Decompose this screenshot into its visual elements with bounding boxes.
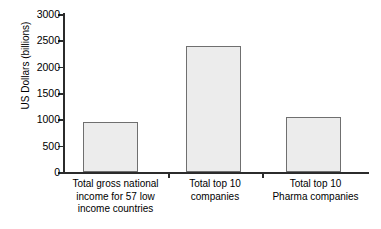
x-axis-label-line: income countries <box>78 203 154 214</box>
bars-layer <box>63 14 368 172</box>
y-axis-title: US Dollars (billions) <box>20 0 31 146</box>
x-axis-label-line: income for 57 low <box>76 191 154 202</box>
y-axis-tick-label: 2500 <box>37 33 60 47</box>
x-axis-label-line: Pharma companies <box>272 191 358 202</box>
x-axis-line <box>63 172 369 174</box>
bar <box>186 46 241 172</box>
y-axis-tick-label: 2000 <box>37 60 60 74</box>
y-axis-tick-label: 1500 <box>37 86 60 100</box>
plot-area: 050010001500200025003000 <box>63 14 368 172</box>
bar <box>286 117 341 172</box>
x-axis-label-line: Total gross national <box>72 178 158 189</box>
x-axis-category-labels: Total gross nationalincome for 57 lowinc… <box>63 178 369 228</box>
bar <box>83 122 138 172</box>
bar-chart: US Dollars (billions) 050010001500200025… <box>0 0 381 229</box>
x-axis-label-line: Total top 10 <box>189 178 241 189</box>
x-axis-label-line: Total top 10 <box>290 178 342 189</box>
y-axis-tick-label: 0 <box>54 165 60 179</box>
x-axis-category-label: Total top 10companies <box>168 178 262 203</box>
y-axis-tick-label: 3000 <box>37 7 60 21</box>
x-axis-label-line: companies <box>191 191 239 202</box>
y-axis-tick-label: 500 <box>42 139 60 153</box>
x-axis-category-label: Total top 10Pharma companies <box>262 178 369 203</box>
y-axis-tick-label: 1000 <box>37 112 60 126</box>
x-axis-category-label: Total gross nationalincome for 57 lowinc… <box>63 178 168 216</box>
